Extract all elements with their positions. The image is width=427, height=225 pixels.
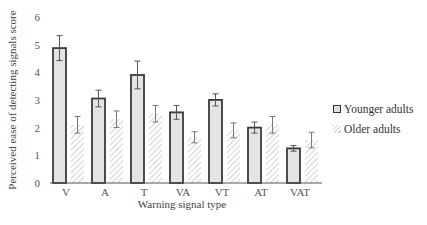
x-tick-label: VT [215,186,230,198]
x-axis-ticks: VATVAVTATVAT [62,186,310,198]
y-tick-label: 1 [35,149,41,161]
bars [53,36,318,183]
y-tick-label: 2 [35,122,41,134]
legend-swatch-older [333,125,341,133]
legend-swatch-younger [333,105,341,113]
y-tick-label: 4 [35,66,41,78]
x-tick-label: VAT [290,186,310,198]
x-tick-label: AT [254,186,268,198]
legend: Younger adults Older adults [333,99,413,139]
bar-younger [170,112,183,183]
bar-older [110,119,123,183]
bar-older [149,114,162,183]
x-tick-label: A [101,186,109,198]
bar-younger [53,48,66,183]
bar-younger [248,128,261,183]
x-axis-title: Warning signal type [138,198,226,210]
bar-younger [209,100,222,183]
y-tick-label: 5 [35,39,41,51]
y-tick-label: 0 [35,177,41,189]
legend-label-older: Older adults [344,123,401,135]
legend-label-younger: Younger adults [344,103,413,115]
legend-item-older: Older adults [333,119,413,139]
y-tick-label: 6 [35,11,41,23]
y-axis-title: Perceived ease of detecting signals scor… [6,10,18,189]
bar-younger [92,99,105,183]
legend-item-younger: Younger adults [333,99,413,119]
bar-younger [287,148,300,183]
x-tick-label: VA [176,186,191,198]
y-tick-label: 3 [35,94,41,106]
bar-older [188,137,201,183]
x-tick-label: T [141,186,148,198]
y-axis-ticks: 0123456 [35,11,41,189]
x-tick-label: V [62,186,70,198]
bar-younger [131,75,144,183]
